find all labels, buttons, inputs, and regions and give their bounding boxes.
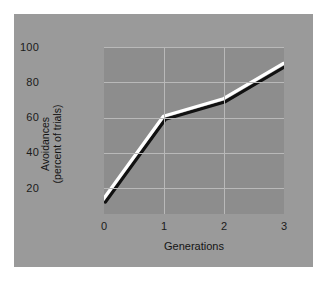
y-tick-label-40: 40 <box>0 147 39 158</box>
y-tick-label-60: 60 <box>0 112 39 123</box>
chart-figure: 100 80 60 40 20 0 1 2 3 Avoidances (perc… <box>0 0 329 285</box>
x-tick-label-3: 3 <box>272 221 296 232</box>
data-line-shadow <box>105 66 284 202</box>
x-tick-label-2: 2 <box>212 221 236 232</box>
gridline-x-2 <box>224 47 225 214</box>
gridline-x-1 <box>164 47 165 214</box>
y-tick-label-80: 80 <box>0 77 39 88</box>
y-axis-title: Avoidances (percent of trials) <box>42 74 60 214</box>
gridline-y-80 <box>104 82 284 83</box>
gridline-y-100 <box>104 47 284 48</box>
figure-panel: 100 80 60 40 20 0 1 2 3 Avoidances (perc… <box>14 14 313 267</box>
y-tick-label-100: 100 <box>0 42 39 53</box>
gridline-y-60 <box>104 118 284 119</box>
x-axis-title: Generations <box>104 240 284 252</box>
x-tick-label-0: 0 <box>92 221 116 232</box>
gridline-y-40 <box>104 153 284 154</box>
x-tick-label-1: 1 <box>152 221 176 232</box>
y-axis-title-line1: Avoidances <box>39 105 51 184</box>
plot-area <box>104 47 284 214</box>
y-tick-label-20: 20 <box>0 183 39 194</box>
y-axis-title-line2: (percent of trials) <box>51 105 63 184</box>
gridline-y-20 <box>104 188 284 189</box>
